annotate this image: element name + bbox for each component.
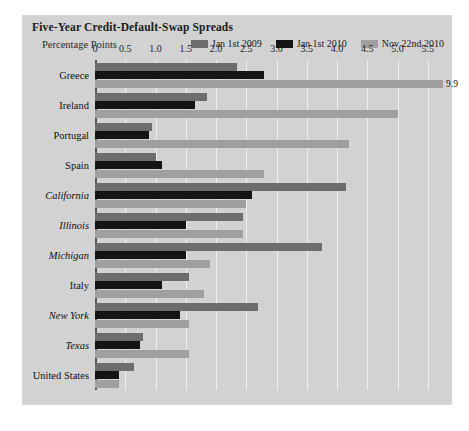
bar-7-2[interactable] — [95, 290, 204, 298]
bar-0-2[interactable]: 9.9 — [95, 80, 443, 88]
bar-6-0[interactable] — [95, 243, 322, 251]
bar-1-2[interactable] — [95, 110, 398, 118]
chart-title: Five-Year Credit-Default-Swap Spreads — [32, 21, 233, 33]
category-label-0: Greece — [59, 70, 89, 81]
bar-group: Spain — [95, 150, 443, 180]
bar-group: New York — [95, 300, 443, 330]
bar-8-0[interactable] — [95, 303, 258, 311]
x-tick-label-3: 1.5 — [180, 43, 193, 54]
bar-3-0[interactable] — [95, 153, 156, 161]
category-label-5: Illinois — [59, 220, 89, 231]
x-tick-label-1: 0.5 — [119, 43, 132, 54]
bar-3-1[interactable] — [95, 161, 162, 169]
bar-6-1[interactable] — [95, 251, 186, 259]
category-label-1: Ireland — [59, 100, 89, 111]
bar-7-0[interactable] — [95, 273, 189, 281]
x-tick-label-5: 2.5 — [240, 43, 253, 54]
bar-group: Michigan — [95, 240, 443, 270]
plot-area: Greece9.9IrelandPortugalSpainCaliforniaI… — [95, 60, 443, 390]
bar-group: Italy — [95, 270, 443, 300]
bar-3-2[interactable] — [95, 170, 264, 178]
bar-group: California — [95, 180, 443, 210]
bar-10-1[interactable] — [95, 371, 119, 379]
bar-value-annotation: 9.9 — [446, 79, 458, 89]
x-tick-label-6: 3.0 — [270, 43, 283, 54]
bar-group: Illinois — [95, 210, 443, 240]
bar-group: United States — [95, 360, 443, 390]
bar-10-0[interactable] — [95, 363, 134, 371]
bar-4-1[interactable] — [95, 191, 252, 199]
bar-8-2[interactable] — [95, 320, 189, 328]
bar-4-0[interactable] — [95, 183, 346, 191]
x-tick-label-8: 4.0 — [331, 43, 344, 54]
x-axis-tick-labels: 00.51.01.52.02.53.03.54.04.55.05.5 — [95, 43, 443, 59]
bar-6-2[interactable] — [95, 260, 210, 268]
x-tick-label-11: 5.5 — [422, 43, 435, 54]
category-label-8: New York — [49, 310, 89, 321]
bar-4-2[interactable] — [95, 200, 246, 208]
bar-0-1[interactable] — [95, 71, 264, 79]
bar-group: Ireland — [95, 90, 443, 120]
bar-0-0[interactable] — [95, 63, 237, 71]
category-label-4: California — [45, 190, 89, 201]
x-tick-label-10: 5.0 — [391, 43, 404, 54]
bar-1-0[interactable] — [95, 93, 207, 101]
bar-5-2[interactable] — [95, 230, 243, 238]
bar-8-1[interactable] — [95, 311, 180, 319]
category-label-6: Michigan — [49, 250, 89, 261]
x-tick-label-7: 3.5 — [301, 43, 314, 54]
category-label-10: United States — [33, 370, 89, 381]
chart-panel: Five-Year Credit-Default-Swap Spreads Pe… — [22, 15, 452, 405]
bar-2-2[interactable] — [95, 140, 349, 148]
bar-9-2[interactable] — [95, 350, 189, 358]
x-tick-label-0: 0 — [93, 43, 98, 54]
bar-group: Portugal — [95, 120, 443, 150]
bar-7-1[interactable] — [95, 281, 162, 289]
bar-2-1[interactable] — [95, 131, 149, 139]
bar-10-2[interactable] — [95, 380, 119, 388]
bar-group: Greece9.9 — [95, 60, 443, 90]
x-tick-label-9: 4.5 — [361, 43, 374, 54]
bar-5-1[interactable] — [95, 221, 186, 229]
category-label-3: Spain — [65, 160, 89, 171]
category-label-7: Italy — [70, 280, 89, 291]
bar-9-1[interactable] — [95, 341, 140, 349]
bar-1-1[interactable] — [95, 101, 195, 109]
bar-5-0[interactable] — [95, 213, 243, 221]
bar-2-0[interactable] — [95, 123, 152, 131]
x-tick-label-2: 1.0 — [149, 43, 162, 54]
bar-group: Texas — [95, 330, 443, 360]
bar-9-0[interactable] — [95, 333, 143, 341]
category-label-9: Texas — [65, 340, 89, 351]
x-tick-label-4: 2.0 — [210, 43, 223, 54]
category-label-2: Portugal — [53, 130, 89, 141]
